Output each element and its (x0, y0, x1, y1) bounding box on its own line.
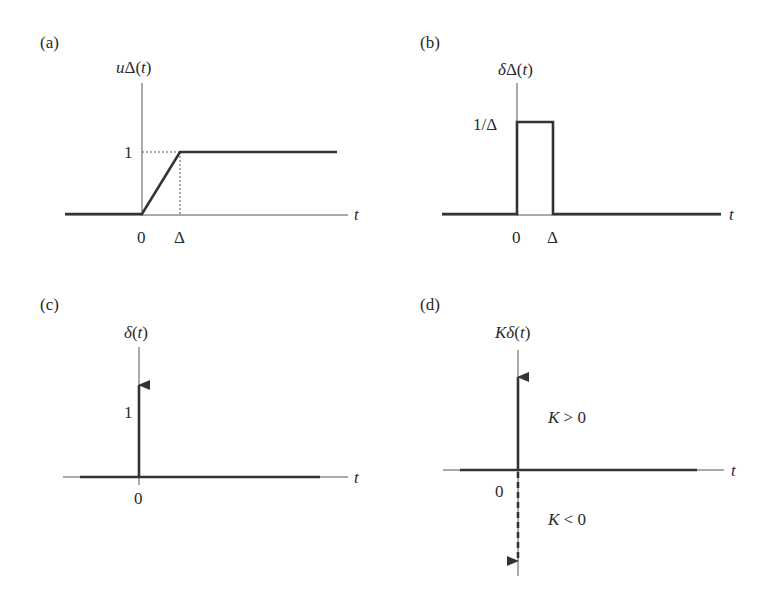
panel-b-xlabel: t (729, 205, 735, 224)
panel-c-tag: (c) (40, 295, 59, 314)
impulse-figure: (a) uΔ(t) 1 0 Δ t (b) δΔ(t) 1/Δ 0 Δ t (c… (0, 0, 767, 596)
panel-d-annotation-positive: K > 0 (547, 408, 586, 427)
panel-a-xtick-delta: Δ (174, 228, 185, 247)
panel-d-xtick-0: 0 (495, 482, 504, 501)
panel-b-tag: (b) (420, 33, 440, 52)
panel-d-xlabel: t (731, 461, 737, 480)
panel-d: (d) Kδ(t) K > 0 K < 0 0 t (420, 295, 737, 576)
panel-a-ytick: 1 (124, 143, 133, 162)
panel-b-xtick-0: 0 (512, 228, 521, 247)
panel-b-ytick: 1/Δ (473, 115, 497, 134)
panel-b: (b) δΔ(t) 1/Δ 0 Δ t (420, 33, 735, 247)
panel-b-ylabel: δΔ(t) (498, 60, 533, 79)
panel-b-xtick-delta: Δ (547, 228, 558, 247)
panel-a-ylabel: uΔ(t) (116, 58, 152, 77)
panel-a-xtick-0: 0 (137, 228, 146, 247)
panel-a: (a) uΔ(t) 1 0 Δ t (40, 33, 360, 247)
panel-b-signal (442, 122, 721, 214)
panel-c-xtick-0: 0 (134, 489, 143, 508)
panel-a-tag: (a) (40, 33, 59, 52)
panel-c-ylabel: δ(t) (124, 323, 148, 342)
panel-c-ytick: 1 (124, 403, 133, 422)
panel-c-xlabel: t (354, 468, 360, 487)
panel-d-ylabel: Kδ(t) (494, 323, 530, 342)
panel-d-tag: (d) (420, 295, 440, 314)
panel-d-annotation-negative: K < 0 (547, 510, 586, 529)
panel-a-xlabel: t (354, 205, 360, 224)
panel-c: (c) δ(t) 1 0 t (40, 295, 360, 508)
panel-a-signal (65, 152, 337, 214)
